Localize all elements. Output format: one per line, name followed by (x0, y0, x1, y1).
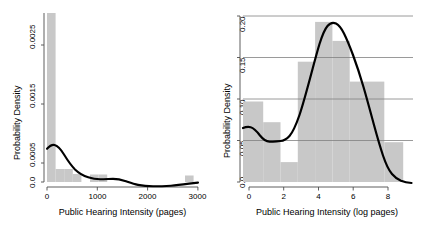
left-axes (41, 13, 198, 191)
right-bar (315, 22, 332, 182)
right-bar (298, 62, 315, 182)
figure-container: Probability Density 0.0 0.0005 0.0015 0.… (0, 0, 421, 231)
left-bar (64, 169, 73, 182)
right-bar (243, 102, 263, 183)
right-x-axis-title: Public Hearing Intensity (log pages) (232, 207, 421, 217)
left-bar (56, 169, 65, 182)
right-bar (332, 41, 349, 182)
left-bar (73, 174, 82, 182)
right-bar (281, 162, 298, 182)
left-x-tick-label-2: 2000 (134, 192, 161, 201)
left-x-tick-label-0: 0 (37, 192, 57, 201)
right-x-tick-label-1: 2 (274, 192, 294, 201)
left-bar (185, 176, 194, 183)
chart-panel-left: Probability Density 0.0 0.0005 0.0015 0.… (0, 0, 210, 231)
right-bar (350, 82, 367, 182)
chart-panel-right: Probability Density 0.0 0.05 0.10 0.15 0… (210, 0, 421, 231)
right-x-tick-label-0: 0 (239, 192, 259, 201)
left-histogram-bars (47, 13, 194, 182)
right-bar (263, 122, 280, 182)
right-x-tick-label-4: 8 (378, 192, 398, 201)
left-x-tick-label-1: 1000 (84, 192, 111, 201)
right-x-tick-label-2: 4 (309, 192, 329, 201)
right-histogram-bars (243, 22, 403, 182)
right-x-tick-label-3: 6 (343, 192, 363, 201)
left-x-tick-label-3: 3000 (184, 192, 211, 201)
left-x-axis-title: Public Hearing Intensity (pages) (35, 207, 210, 217)
left-bar (47, 13, 56, 182)
